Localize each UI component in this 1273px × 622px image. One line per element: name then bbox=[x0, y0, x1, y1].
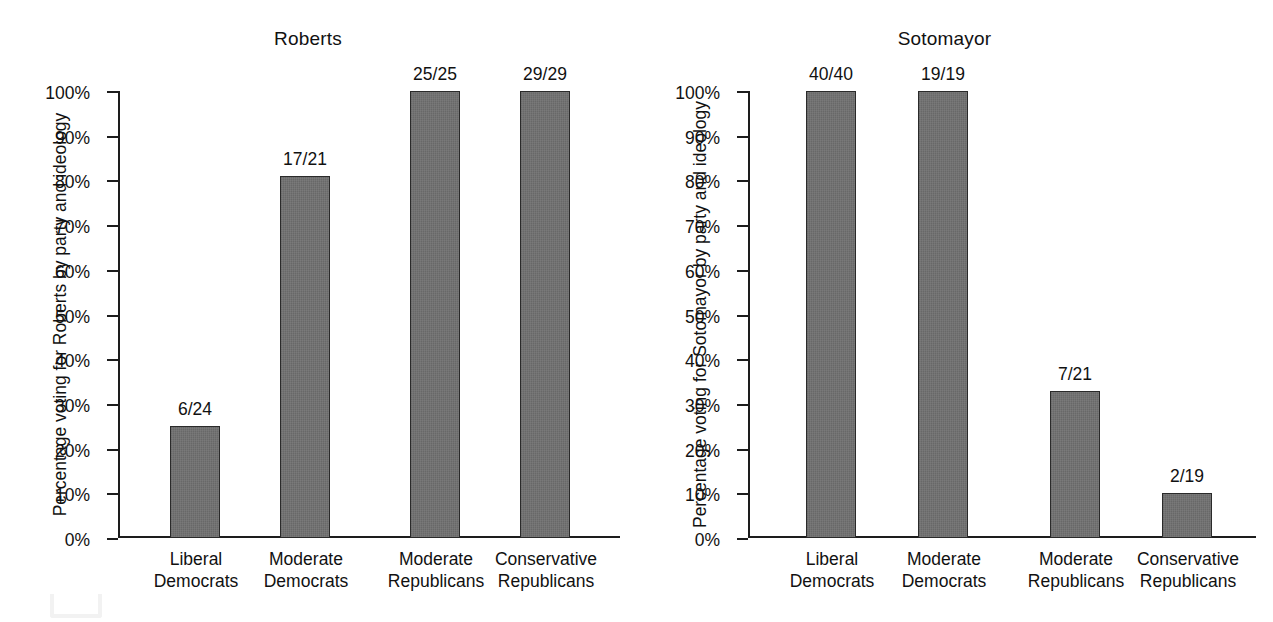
category-label-line2: Democrats bbox=[154, 570, 239, 592]
bar-value-label: 6/24 bbox=[178, 399, 212, 420]
bar-value-label: 40/40 bbox=[809, 64, 853, 85]
bar-value-label: 17/21 bbox=[283, 149, 327, 170]
y-axis-tick: 30% bbox=[737, 404, 748, 406]
x-axis-category-label: ModerateDemocrats bbox=[902, 548, 987, 593]
bar-value-label: 25/25 bbox=[413, 64, 457, 85]
category-label-line2: Republicans bbox=[388, 570, 484, 592]
y-axis-tick-label: 10% bbox=[685, 485, 720, 506]
category-label-line2: Democrats bbox=[264, 570, 349, 592]
bar: 2/19ConservativeRepublicans bbox=[1162, 493, 1212, 538]
figure-page: Roberts Percentage voting for Roberts by… bbox=[0, 0, 1273, 622]
y-axis-tick-label: 80% bbox=[685, 172, 720, 193]
category-label-line1: Conservative bbox=[495, 549, 597, 569]
y-axis-tick: 20% bbox=[107, 449, 118, 451]
category-label-line1: Moderate bbox=[907, 549, 981, 569]
bar-value-label: 29/29 bbox=[523, 64, 567, 85]
y-axis-tick-label: 100% bbox=[45, 83, 90, 104]
y-axis-tick: 40% bbox=[737, 359, 748, 361]
x-axis-category-label: LiberalDemocrats bbox=[790, 548, 875, 593]
bar: 6/24LiberalDemocrats bbox=[170, 426, 220, 538]
y-axis-tick: 90% bbox=[737, 136, 748, 138]
y-axis-tick: 70% bbox=[737, 225, 748, 227]
bar-value-label: 2/19 bbox=[1170, 466, 1204, 487]
y-axis-tick-label: 40% bbox=[55, 351, 90, 372]
x-axis-category-label: ConservativeRepublicans bbox=[1137, 548, 1239, 593]
y-axis-tick-label: 60% bbox=[55, 261, 90, 282]
y-axis-tick: 30% bbox=[107, 404, 118, 406]
y-axis-tick: 100% bbox=[107, 91, 118, 93]
y-axis-tick: 50% bbox=[107, 315, 118, 317]
category-label-line2: Republicans bbox=[1028, 570, 1124, 592]
y-axis-tick: 90% bbox=[107, 136, 118, 138]
y-axis-tick-label: 90% bbox=[55, 127, 90, 148]
bar: 7/21ModerateRepublicans bbox=[1050, 391, 1100, 539]
y-axis-tick-label: 70% bbox=[685, 217, 720, 238]
category-label-line1: Liberal bbox=[806, 549, 859, 569]
y-axis-tick-label: 100% bbox=[675, 83, 720, 104]
y-axis-tick: 20% bbox=[737, 449, 748, 451]
x-axis-category-label: ModerateRepublicans bbox=[388, 548, 484, 593]
y-axis-tick: 100% bbox=[737, 91, 748, 93]
y-axis-tick: 50% bbox=[737, 315, 748, 317]
category-label-line1: Moderate bbox=[399, 549, 473, 569]
y-axis-line-sotomayor bbox=[748, 91, 750, 538]
category-label-line1: Liberal bbox=[170, 549, 223, 569]
y-axis-tick: 80% bbox=[107, 180, 118, 182]
y-axis-tick-label: 90% bbox=[685, 127, 720, 148]
category-label-line1: Moderate bbox=[269, 549, 343, 569]
bar: 29/29ConservativeRepublicans bbox=[520, 91, 570, 538]
y-axis-tick-label: 50% bbox=[55, 306, 90, 327]
category-label-line2: Republicans bbox=[495, 570, 597, 592]
chart-title-sotomayor: Sotomayor bbox=[622, 28, 1267, 50]
x-axis-category-label: ModerateRepublicans bbox=[1028, 548, 1124, 593]
category-label-line2: Republicans bbox=[1137, 570, 1239, 592]
y-axis-tick: 80% bbox=[737, 180, 748, 182]
y-axis-tick: 40% bbox=[107, 359, 118, 361]
y-axis-tick-label: 70% bbox=[55, 217, 90, 238]
y-axis-tick-label: 30% bbox=[55, 395, 90, 416]
y-axis-tick-label: 50% bbox=[685, 306, 720, 327]
y-axis-line-roberts bbox=[118, 91, 120, 538]
y-axis-tick: 0% bbox=[107, 538, 118, 540]
y-axis-tick: 60% bbox=[107, 270, 118, 272]
bar-value-label: 7/21 bbox=[1058, 364, 1092, 385]
y-axis-tick: 10% bbox=[107, 493, 118, 495]
category-label-line2: Democrats bbox=[790, 570, 875, 592]
scan-artifact bbox=[50, 594, 102, 618]
plot-area-sotomayor: 100%90%80%70%60%50%40%30%20%10%0% 40/40L… bbox=[748, 91, 1253, 538]
bar: 19/19ModerateDemocrats bbox=[918, 91, 968, 538]
category-label-line2: Democrats bbox=[902, 570, 987, 592]
chart-title-roberts: Roberts bbox=[0, 28, 628, 50]
chart-panel-sotomayor: Sotomayor Percentage voting for Sotomayo… bbox=[628, 0, 1273, 622]
x-axis-category-label: LiberalDemocrats bbox=[154, 548, 239, 593]
bar: 17/21ModerateDemocrats bbox=[280, 176, 330, 538]
y-axis-tick-label: 0% bbox=[65, 530, 90, 551]
y-axis-tick-label: 60% bbox=[685, 261, 720, 282]
category-label-line1: Moderate bbox=[1039, 549, 1113, 569]
y-axis-tick-label: 20% bbox=[685, 440, 720, 461]
bar-value-label: 19/19 bbox=[921, 64, 965, 85]
x-axis-category-label: ModerateDemocrats bbox=[264, 548, 349, 593]
y-axis-tick: 70% bbox=[107, 225, 118, 227]
y-axis-tick-label: 40% bbox=[685, 351, 720, 372]
y-axis-tick: 10% bbox=[737, 493, 748, 495]
bar: 25/25ModerateRepublicans bbox=[410, 91, 460, 538]
bar: 40/40LiberalDemocrats bbox=[806, 91, 856, 538]
y-axis-tick-label: 20% bbox=[55, 440, 90, 461]
y-axis-tick: 0% bbox=[737, 538, 748, 540]
y-axis-tick-label: 80% bbox=[55, 172, 90, 193]
y-axis-tick-label: 30% bbox=[685, 395, 720, 416]
x-axis-category-label: ConservativeRepublicans bbox=[495, 548, 597, 593]
y-axis-tick-label: 0% bbox=[695, 530, 720, 551]
y-axis-tick: 60% bbox=[737, 270, 748, 272]
category-label-line1: Conservative bbox=[1137, 549, 1239, 569]
plot-area-roberts: 100%90%80%70%60%50%40%30%20%10%0% 6/24Li… bbox=[118, 91, 618, 538]
chart-panel-roberts: Roberts Percentage voting for Roberts by… bbox=[0, 0, 640, 622]
y-axis-tick-label: 10% bbox=[55, 485, 90, 506]
